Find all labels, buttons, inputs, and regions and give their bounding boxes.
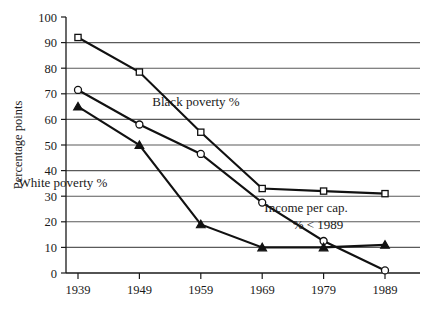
data-point-1979 [321,188,327,194]
x-tick-label-1959: 1959 [188,283,213,297]
x-tick-label-1939: 1939 [66,283,91,297]
y-tick-label-60: 60 [45,113,58,127]
data-point-1959 [197,150,204,157]
data-point-1969 [259,185,265,191]
y-tick-label-0: 0 [51,267,57,281]
y-tick-label-70: 70 [45,87,58,101]
data-point-1959 [198,129,204,135]
x-tick-label-1979: 1979 [311,283,336,297]
data-point-1949 [136,69,142,75]
chart-container: 0102030405060708090100 19391949195919691… [0,0,438,311]
y-tick-label-100: 100 [38,11,57,25]
line-chart: 0102030405060708090100 19391949195919691… [0,0,438,311]
y-tick-label-20: 20 [45,215,58,229]
y-tick-label-90: 90 [45,36,58,50]
annotation-income-per-cap-line2: % < 1989 [293,217,344,232]
data-point-1989 [382,267,389,274]
data-point-1949 [136,121,143,128]
x-tick-label-1989: 1989 [373,283,398,297]
x-tick-label-1969: 1969 [250,283,275,297]
annotation-black-poverty: Black poverty % [152,94,240,109]
data-point-1989 [382,191,388,197]
annotation-white-poverty: White poverty % [19,175,108,190]
y-tick-label-30: 30 [45,190,58,204]
annotation-income-per-cap-line1: Income per cap. [264,200,347,215]
y-tick-label-80: 80 [45,62,58,76]
y-tick-label-10: 10 [45,241,58,255]
data-point-1939 [75,34,81,40]
data-point-1939 [75,86,82,93]
x-tick-label-1949: 1949 [127,283,152,297]
y-tick-label-50: 50 [45,139,58,153]
